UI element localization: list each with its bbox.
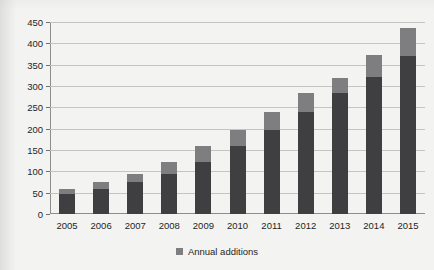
x-axis-tick-label-2009: 2009: [193, 220, 214, 231]
bar-segment-cumulative: [93, 189, 109, 214]
bar-segment-cumulative: [400, 56, 416, 214]
bar-segment-cumulative: [195, 162, 211, 214]
x-axis-tick-label-2008: 2008: [159, 220, 180, 231]
y-axis-tick-mark: [46, 43, 50, 44]
bar-segment-cumulative: [230, 146, 246, 214]
bar-2009: [195, 146, 211, 214]
x-axis-tick-label-2010: 2010: [227, 220, 248, 231]
chart-figure: Wind power capacity (GW) 050100150200250…: [0, 0, 434, 270]
y-axis-tick-label: 350: [27, 59, 43, 70]
y-axis-tick-mark: [46, 193, 50, 194]
y-axis-tick-mark: [46, 86, 50, 87]
legend-label-annual-additions: Annual additions: [188, 246, 258, 257]
bar-segment-annual-additions: [298, 93, 314, 112]
y-axis-tick-label: 100: [27, 166, 43, 177]
x-axis-tick-label-2007: 2007: [125, 220, 146, 231]
x-axis-tick-label-2013: 2013: [329, 220, 350, 231]
bar-segment-annual-additions: [161, 162, 177, 174]
bar-segment-annual-additions: [264, 112, 280, 129]
y-axis-tick-label: 300: [27, 81, 43, 92]
bar-2014: [366, 55, 382, 214]
y-axis-tick-mark: [46, 150, 50, 151]
x-axis-tick-label-2015: 2015: [397, 220, 418, 231]
bar-segment-cumulative: [332, 93, 348, 214]
y-axis-tick-mark: [46, 214, 50, 215]
bar-2013: [332, 78, 348, 214]
x-axis-tick-label-2006: 2006: [91, 220, 112, 231]
x-axis-tick-label-2011: 2011: [261, 220, 281, 231]
y-axis-tick-label: 400: [27, 38, 43, 49]
bar-2005: [59, 189, 75, 214]
y-axis-tick-label: 50: [32, 187, 43, 198]
y-axis-tick-mark: [46, 129, 50, 130]
y-axis-tick-label: 450: [27, 17, 43, 28]
bar-2006: [93, 182, 109, 214]
y-axis-tick-label: 0: [38, 209, 43, 220]
bar-segment-annual-additions: [59, 189, 75, 194]
bar-2010: [230, 130, 246, 214]
gridline: [50, 22, 425, 23]
legend-swatch-annual-additions: [176, 248, 183, 255]
bar-segment-annual-additions: [366, 55, 382, 77]
y-axis-tick-label: 250: [27, 102, 43, 113]
bar-segment-cumulative: [59, 194, 75, 214]
bar-2008: [161, 162, 177, 214]
y-axis-tick-mark: [46, 22, 50, 23]
bar-segment-cumulative: [264, 130, 280, 214]
bar-segment-cumulative: [161, 174, 177, 214]
bar-2011: [264, 112, 280, 214]
bar-segment-cumulative: [298, 112, 314, 214]
bar-segment-cumulative: [127, 182, 143, 214]
y-axis-tick-mark: [46, 107, 50, 108]
bar-segment-annual-additions: [400, 28, 416, 56]
bar-segment-cumulative: [366, 77, 382, 214]
bar-2015: [400, 28, 416, 214]
bar-segment-annual-additions: [195, 146, 211, 162]
y-axis-tick-label: 150: [27, 145, 43, 156]
x-axis-tick-label-2014: 2014: [363, 220, 384, 231]
bar-segment-annual-additions: [93, 182, 109, 188]
bar-segment-annual-additions: [127, 174, 143, 183]
x-axis-tick-label-2005: 2005: [56, 220, 77, 231]
bar-segment-annual-additions: [230, 130, 246, 147]
bar-2012: [298, 93, 314, 214]
bar-2007: [127, 174, 143, 214]
y-axis-tick-mark: [46, 171, 50, 172]
chart-legend: Annual additions: [0, 246, 434, 257]
y-axis-tick-mark: [46, 65, 50, 66]
y-axis-tick-label: 200: [27, 123, 43, 134]
gridline: [50, 43, 425, 44]
plot-area: 050100150200250300350400450 200520062007…: [50, 22, 425, 214]
x-axis-tick-label-2012: 2012: [295, 220, 316, 231]
bar-segment-annual-additions: [332, 78, 348, 93]
